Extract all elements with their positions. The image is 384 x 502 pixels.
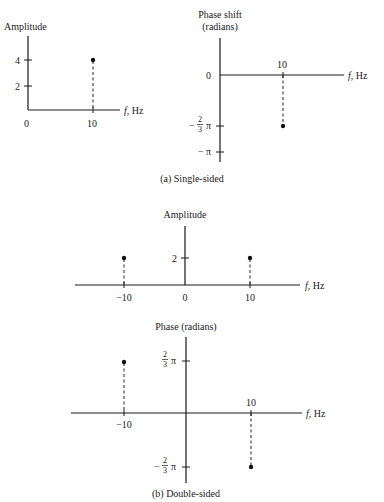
y-tick-label-zero: 0 xyxy=(206,70,211,81)
data-point xyxy=(91,58,95,62)
caption-single-sided: (a) Single-sided xyxy=(160,173,224,185)
x-tick-label: 10 xyxy=(87,118,97,129)
x-tick-label: 10 xyxy=(245,292,255,303)
x-tick-label: −10 xyxy=(116,292,132,303)
svg-text:3: 3 xyxy=(198,125,202,134)
svg-text:2: 2 xyxy=(163,350,167,359)
x-axis-label: f, Hz xyxy=(305,280,325,291)
x-axis-label: f, Hz xyxy=(348,70,368,81)
y-tick-label-two-thirds-pi: 2 3 π xyxy=(162,350,176,369)
svg-text:π: π xyxy=(206,146,211,157)
svg-text:3: 3 xyxy=(163,466,167,475)
y-axis-title: Phase (radians) xyxy=(155,321,216,333)
y-axis-title: Amplitude xyxy=(164,209,207,220)
x-axis-label: f, Hz xyxy=(306,408,326,419)
svg-text:−: − xyxy=(198,146,204,157)
y-axis-title: Amplitude xyxy=(4,21,47,32)
data-point xyxy=(122,256,126,260)
plot-double-sided-phase: Phase (radians) 2 3 π − 2 3 π −10 10 f, … xyxy=(71,321,326,483)
data-point xyxy=(249,465,253,469)
svg-text:π: π xyxy=(171,355,176,366)
y-tick-label: 4 xyxy=(15,55,20,66)
x-tick-label: 0 xyxy=(183,292,188,303)
y-tick-label: 2 xyxy=(15,81,20,92)
y-tick-label-neg-two-thirds-pi: − 2 3 π xyxy=(154,456,176,475)
plot-single-sided-amplitude: Amplitude 4 2 0 10 f, Hz xyxy=(4,21,144,129)
y-tick-label-neg-pi: − π xyxy=(198,146,211,157)
x-tick-label: 10 xyxy=(246,397,256,408)
y-axis-title-line2: (radians) xyxy=(202,21,238,33)
svg-text:2: 2 xyxy=(198,115,202,124)
svg-text:−: − xyxy=(154,461,160,472)
svg-text:π: π xyxy=(171,461,176,472)
spectrum-figure: Amplitude 4 2 0 10 f, Hz Phase shift (ra… xyxy=(0,0,384,502)
y-axis-title-line1: Phase shift xyxy=(198,9,242,20)
svg-text:3: 3 xyxy=(163,360,167,369)
plot-double-sided-amplitude: Amplitude 2 −10 0 10 f, Hz xyxy=(75,209,325,303)
x-axis-label: f, Hz xyxy=(124,105,144,116)
data-point xyxy=(248,256,252,260)
data-point xyxy=(122,360,126,364)
svg-text:π: π xyxy=(206,120,211,131)
x-tick-label: 10 xyxy=(277,59,287,70)
data-point xyxy=(281,124,285,128)
plot-single-sided-phase: Phase shift (radians) 0 10 − 2 3 π − π f… xyxy=(189,9,368,162)
svg-text:−: − xyxy=(189,120,195,131)
x-tick-label: −10 xyxy=(116,419,132,430)
caption-double-sided: (b) Double-sided xyxy=(152,488,220,500)
x-tick-label: 0 xyxy=(24,118,29,129)
y-tick-label-neg-two-thirds-pi: − 2 3 π xyxy=(189,115,211,134)
y-tick-label: 2 xyxy=(172,253,177,264)
svg-text:2: 2 xyxy=(163,456,167,465)
